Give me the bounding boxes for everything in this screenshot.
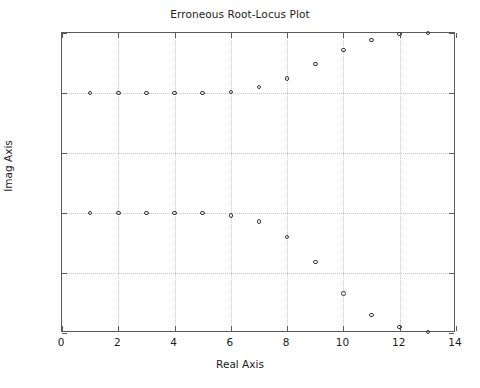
root-locus-chart: Erroneous Root-Locus Plot 02468101214 -0… — [0, 0, 480, 388]
data-point — [397, 32, 402, 37]
gridline-vertical — [400, 33, 401, 331]
y-tick — [62, 153, 67, 154]
x-tick-top — [175, 33, 176, 38]
data-point — [257, 219, 262, 224]
y-tick-right — [449, 333, 454, 334]
page-title: Erroneous Root-Locus Plot — [0, 8, 480, 20]
y-tick-right — [449, 153, 454, 154]
y-tick — [62, 273, 67, 274]
x-tick — [62, 326, 63, 331]
data-point — [369, 38, 374, 43]
y-tick — [62, 333, 67, 334]
data-point — [397, 325, 402, 330]
x-tick-label: 6 — [227, 336, 234, 348]
data-point — [341, 291, 346, 296]
x-tick-label: 0 — [58, 336, 65, 348]
x-tick-label: 4 — [170, 336, 177, 348]
data-point — [313, 62, 318, 67]
data-point — [116, 91, 121, 96]
y-tick — [62, 33, 67, 34]
y-tick — [62, 93, 67, 94]
gridline-horizontal — [62, 93, 454, 94]
x-tick-top — [456, 33, 457, 38]
x-tick-label: 8 — [283, 336, 290, 348]
x-tick-label: 10 — [336, 336, 349, 348]
data-point — [200, 91, 205, 96]
x-axis-label: Real Axis — [0, 358, 480, 370]
gridline-vertical — [175, 33, 176, 331]
data-point — [313, 260, 318, 265]
data-point — [257, 85, 262, 90]
x-tick-label: 2 — [114, 336, 121, 348]
gridline-vertical — [231, 33, 232, 331]
y-tick-right — [449, 273, 454, 274]
data-point — [229, 213, 234, 218]
data-point — [172, 91, 177, 96]
data-point — [369, 313, 374, 318]
data-point — [426, 31, 431, 36]
data-point — [285, 76, 290, 81]
x-tick — [343, 326, 344, 331]
x-tick — [118, 326, 119, 331]
gridline-vertical — [343, 33, 344, 331]
data-point — [144, 91, 149, 96]
data-point — [88, 91, 93, 96]
gridline-vertical — [118, 33, 119, 331]
x-tick-label: 14 — [448, 336, 461, 348]
data-point — [285, 235, 290, 240]
data-point — [426, 330, 431, 335]
y-tick-right — [449, 213, 454, 214]
x-tick-top — [231, 33, 232, 38]
plot-area — [61, 32, 455, 332]
gridline-horizontal — [62, 153, 454, 154]
data-point — [88, 211, 93, 216]
gridline-horizontal — [62, 213, 454, 214]
x-tick — [175, 326, 176, 331]
x-tick-label: 12 — [392, 336, 405, 348]
data-point — [116, 211, 121, 216]
data-point — [144, 211, 149, 216]
x-tick — [231, 326, 232, 331]
x-tick-top — [287, 33, 288, 38]
data-point — [172, 211, 177, 216]
x-tick — [287, 326, 288, 331]
gridline-horizontal — [62, 273, 454, 274]
x-tick-top — [118, 33, 119, 38]
y-tick — [62, 213, 67, 214]
data-point — [200, 211, 205, 216]
data-point — [229, 90, 234, 95]
x-tick-top — [343, 33, 344, 38]
y-tick-right — [449, 33, 454, 34]
y-tick-right — [449, 93, 454, 94]
y-axis-label: Imag Axis — [2, 126, 14, 206]
data-point — [341, 48, 346, 53]
x-tick — [456, 326, 457, 331]
